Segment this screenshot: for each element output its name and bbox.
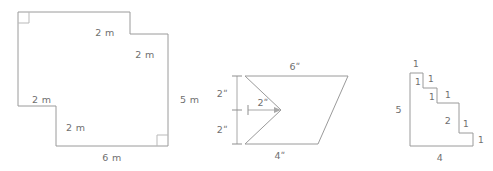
shape-1-label-left-notch-vertical: 2 m (66, 122, 86, 133)
shape-1-group: 2 m 2 m 5 m 2 m 2 m 6 m (18, 12, 200, 163)
shape-1-label-bottom-side: 6 m (102, 152, 122, 163)
shape-3-label-left-side: 5 (396, 104, 402, 115)
shape-3-label-step3-rise: 2 (445, 115, 451, 126)
shape-1-label-notch-horizontal: 2 m (135, 49, 155, 60)
shape-3-label-step3-top: 1 (445, 90, 451, 100)
shape-3-label-step4-rise: 1 (478, 135, 484, 145)
shape-2-label-left-upper: 2ʺ (217, 88, 228, 99)
right-angle-marker-top-left-icon (18, 12, 29, 23)
shape-3-label-step2-top: 1 (428, 74, 434, 84)
shape-3-group: 1 1 1 1 1 5 2 1 1 4 (396, 59, 484, 163)
shape-2-label-notch-depth: 2ʺ (257, 97, 268, 108)
shape-1-label-right-side: 5 m (180, 94, 200, 105)
shape-1-outline (18, 12, 168, 146)
shape-3-label-bottom-side: 4 (437, 152, 443, 163)
shape-3-label-step1-rise: 1 (415, 77, 421, 87)
shape-2-label-bottom-side: 4ʺ (274, 150, 285, 161)
shape-3-label-step1-top: 1 (413, 59, 419, 69)
shape-2-label-top-side: 6ʺ (289, 61, 300, 72)
shape-2-label-left-lower: 2ʺ (217, 124, 228, 135)
shape-1-label-left-notch-horizontal: 2 m (32, 94, 52, 105)
figure-board: 2 m 2 m 5 m 2 m 2 m 6 m 6ʺ 2ʺ 2ʺ 2ʺ 4ʺ (0, 0, 493, 171)
shape-3-label-step2-rise: 1 (429, 92, 435, 102)
shape-2-notch-arrowhead-icon (274, 107, 281, 113)
shape-3-label-step4-top: 1 (463, 119, 469, 129)
shape-2-group: 6ʺ 2ʺ 2ʺ 2ʺ 4ʺ (217, 61, 348, 161)
shape-1-label-top-notch-vertical: 2 m (95, 27, 115, 38)
right-angle-marker-bottom-right-icon (157, 135, 168, 146)
